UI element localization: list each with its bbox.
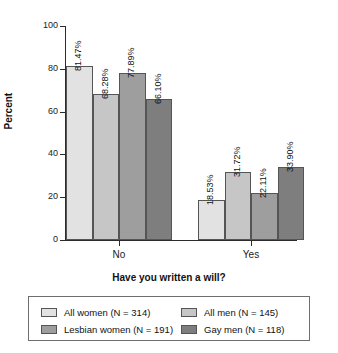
x-axis-tick-mark (251, 241, 252, 246)
bar (225, 172, 252, 240)
y-axis-tick-label-wrap: 0 (0, 235, 58, 244)
y-axis-tick-label-wrap: 80 (0, 64, 58, 73)
x-axis-group-label: Yes (211, 249, 291, 260)
bar (66, 66, 93, 240)
bar-chart-figure: Percent 020406080100 81.47%68.28%77.89%6… (0, 0, 338, 353)
legend-label: All men (N = 145) (204, 307, 278, 318)
bar (119, 73, 146, 240)
y-axis-tick-label-wrap: 60 (0, 107, 58, 116)
bar (93, 94, 120, 240)
legend-label: All women (N = 314) (64, 307, 150, 318)
bar (198, 200, 225, 240)
x-axis-line (65, 240, 297, 241)
plot-area: 81.47%68.28%77.89%66.10%18.53%31.72%22.1… (66, 26, 296, 240)
y-axis-tick-label-wrap: 20 (0, 192, 58, 201)
bar-value-label: 31.72% (233, 147, 242, 178)
y-axis-tick-label: 60 (6, 107, 58, 116)
legend: All women (N = 314)All men (N = 145)Lesb… (28, 296, 310, 341)
y-axis-title: Percent (3, 118, 14, 130)
y-axis-tick-label-wrap: 100 (0, 21, 58, 30)
legend-label: Gay men (N = 118) (204, 324, 284, 335)
bar-value-label: 33.90% (286, 142, 295, 173)
bar-value-label: 66.10% (154, 73, 163, 104)
legend-swatch (41, 325, 57, 334)
y-axis-tick-label: 100 (6, 21, 58, 30)
legend-swatch (41, 308, 57, 317)
bar-value-label: 77.89% (127, 48, 136, 79)
legend-swatch (181, 308, 197, 317)
y-axis-tick-label-wrap: 40 (0, 149, 58, 158)
x-axis-group-label: No (79, 249, 159, 260)
bar-value-label: 22.11% (259, 168, 268, 198)
x-axis-tick-mark (119, 241, 120, 246)
x-axis-title: Have you written a will? (0, 272, 338, 283)
legend-item: All women (N = 314) (41, 305, 150, 319)
y-axis-tick-label: 0 (6, 235, 58, 244)
legend-label: Lesbian women (N = 191) (64, 324, 173, 335)
y-axis-tick-label: 80 (6, 64, 58, 73)
bar (278, 167, 305, 240)
legend-item: Lesbian women (N = 191) (41, 322, 173, 336)
bar (146, 99, 173, 240)
bar-value-label: 18.53% (206, 175, 215, 206)
legend-item: Gay men (N = 118) (181, 322, 284, 336)
bar-value-label: 81.47% (74, 40, 83, 71)
bar-value-label: 68.28% (101, 68, 110, 99)
bar (251, 193, 278, 240)
y-axis-tick-label: 20 (6, 192, 58, 201)
legend-item: All men (N = 145) (181, 305, 278, 319)
legend-swatch (181, 325, 197, 334)
y-axis-tick-label: 40 (6, 149, 58, 158)
